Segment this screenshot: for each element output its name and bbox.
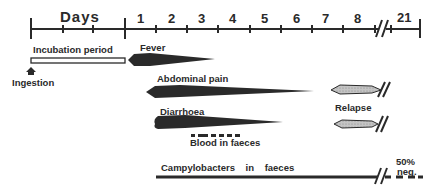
abdominal-pain-bar [146,85,314,98]
fever-label: Fever [140,43,165,53]
relapse-bar-2 [334,116,388,132]
tick-label-1: 1 [137,12,144,25]
fever-bar [128,53,215,66]
tick-label-2: 2 [168,12,175,25]
relapse-bar-1 [331,82,390,97]
tick-label-5: 5 [261,12,268,25]
ingestion-label: Ingestion [12,78,54,88]
axis-title: Days [60,9,100,24]
tick-label-7: 7 [322,12,329,25]
tick-label-3: 3 [198,12,205,25]
relapse-label: Relapse [335,103,371,113]
ingestion-arrow-icon [26,67,36,75]
tick-label-21: 21 [397,11,411,24]
diarrhoea-bar [154,115,283,129]
campylobacters-label: Campylobacters in faeces [161,163,294,173]
tick-label-6: 6 [293,12,300,25]
tick-label-8: 8 [354,12,361,25]
negative-note-text: neg. [397,167,417,177]
incubation-bar [31,58,125,63]
abdominal-pain-label: Abdominal pain [157,74,228,84]
diarrhoea-label: Diarrhoea [160,107,204,117]
blood-label: Blood in faeces [190,138,260,148]
tick-label-4: 4 [229,12,236,25]
incubation-label: Incubation period [33,45,113,55]
